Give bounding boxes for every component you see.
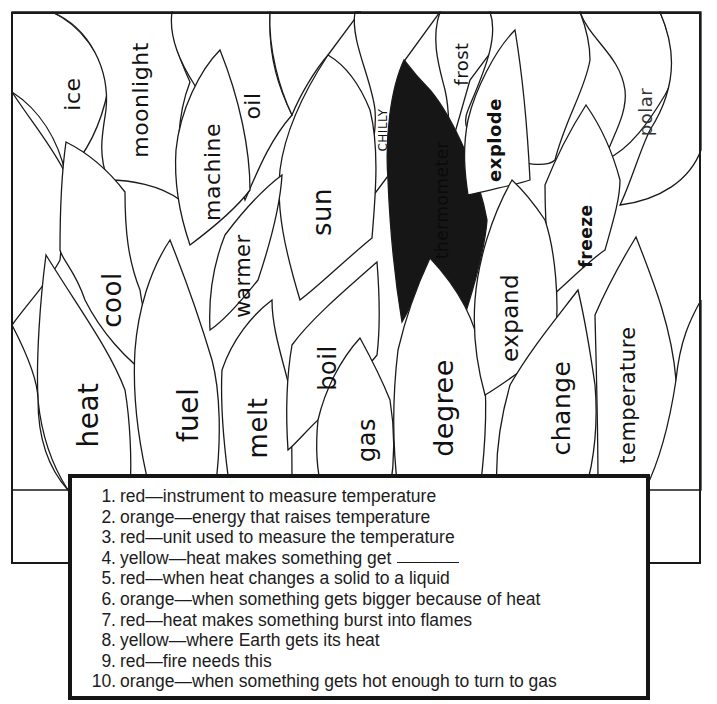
flame-fuel[interactable] [134, 240, 219, 490]
word-polar: polar [635, 88, 656, 136]
clue-number: 2. [72, 507, 120, 528]
word-chilly: CHILLY [376, 108, 390, 151]
clue-number: 3. [72, 527, 120, 548]
clue-item-3: 3.red—unit used to measure the temperatu… [72, 527, 646, 548]
clue-text: red—unit used to measure the temperature [120, 527, 455, 548]
clue-number: 7. [72, 610, 120, 631]
clue-item-9: 9.red—fire needs this [72, 651, 646, 672]
word-boil: boil [314, 345, 342, 390]
word-gas: gas [353, 418, 381, 462]
word-temperature: temperature [616, 326, 640, 464]
clue-number: 10. [72, 671, 120, 692]
word-machine: machine [200, 123, 225, 221]
word-change: change [547, 360, 576, 455]
word-expand: expand [497, 274, 523, 362]
clue-list-box: 1.red—instrument to measure temperature … [68, 474, 650, 700]
clue-number: 6. [72, 589, 120, 610]
clue-text: red—when heat changes a solid to a liqui… [120, 568, 450, 589]
word-warmer: warmer [231, 234, 255, 317]
answer-blank-line[interactable] [397, 548, 459, 563]
word-frost: frost [451, 42, 472, 85]
clue-number: 9. [72, 651, 120, 672]
clue-number: 4. [72, 548, 120, 569]
clue-number: 1. [72, 486, 120, 507]
word-oil: oil [240, 92, 265, 119]
word-explode: explode [484, 98, 505, 182]
word-sun: sun [307, 188, 337, 236]
clue-item-4: 4.yellow—heat makes something get [72, 548, 646, 569]
clue-item-2: 2.orange—energy that raises temperature [72, 507, 646, 528]
clue-text: orange—energy that raises temperature [120, 507, 430, 528]
word-degree: degree [428, 359, 459, 457]
clue-item-7: 7.red—heat makes something burst into fl… [72, 610, 646, 631]
clue-number: 5. [72, 568, 120, 589]
clue-text: red—heat makes something burst into flam… [120, 610, 472, 631]
clue-text: orange—when something gets bigger becaus… [120, 589, 540, 610]
flame-melt[interactable] [222, 300, 292, 490]
clue-item-1: 1.red—instrument to measure temperature [72, 486, 646, 507]
word-moonlight: moonlight [128, 42, 153, 158]
clue-item-10: 10.orange—when something gets hot enough… [72, 671, 646, 692]
clue-item-5: 5.red—when heat changes a solid to a liq… [72, 568, 646, 589]
clue-item-6: 6.orange—when something gets bigger beca… [72, 589, 646, 610]
word-ice: ice [60, 77, 85, 110]
word-melt: melt [243, 398, 273, 459]
word-heat: heat [72, 382, 105, 447]
word-freeze: freeze [576, 204, 596, 267]
clue-text: red—instrument to measure temperature [120, 486, 436, 507]
clue-text: yellow—where Earth gets its heat [120, 630, 380, 651]
clue-text: orange—when something gets hot enough to… [120, 671, 557, 692]
clue-item-8: 8.yellow—where Earth gets its heat [72, 630, 646, 651]
clue-text: red—fire needs this [120, 651, 272, 672]
word-cool: cool [97, 272, 127, 327]
clue-number: 8. [72, 630, 120, 651]
word-thermometer: thermometer [432, 141, 452, 259]
word-fuel: fuel [172, 388, 205, 443]
clue-text: yellow—heat makes something get [120, 548, 391, 569]
